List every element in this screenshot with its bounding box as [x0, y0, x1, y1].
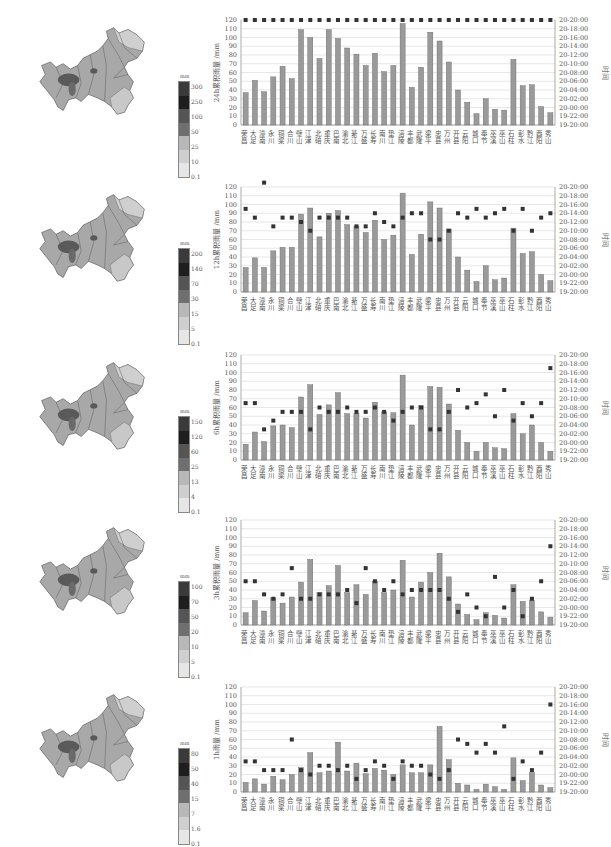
svg-text:垫江: 垫江: [386, 296, 394, 311]
bar-开县: [455, 430, 460, 460]
svg-text:80: 80: [229, 718, 237, 726]
svg-text:南川: 南川: [377, 129, 385, 144]
svg-text:70: 70: [229, 227, 237, 235]
svg-text:大足: 大足: [248, 296, 256, 312]
svg-text:丰都: 丰都: [405, 464, 413, 480]
svg-text:120: 120: [225, 683, 237, 691]
svg-text:潼南: 潼南: [257, 464, 265, 479]
svg-text:40: 40: [229, 586, 237, 594]
svg-text:20-18:00: 20-18:00: [559, 25, 588, 33]
svg-text:黔江: 黔江: [525, 629, 533, 644]
bar-云阳: [465, 785, 470, 792]
svg-text:铜梁: 铜梁: [276, 464, 284, 480]
svg-text:巴南: 巴南: [331, 630, 339, 644]
bar-秀山: [548, 788, 553, 792]
svg-text:璧山: 璧山: [294, 296, 302, 312]
bar-渝北: [345, 225, 350, 292]
svg-text:20-16:00: 20-16:00: [559, 34, 588, 42]
bar-巴南: [335, 742, 340, 792]
bar-长寿: [372, 53, 377, 125]
svg-text:北碚: 北碚: [313, 297, 321, 312]
svg-text:涪陵: 涪陵: [396, 296, 404, 312]
svg-text:开县: 开县: [451, 297, 459, 312]
precip-map: [20, 177, 155, 297]
bar-奉节: [483, 443, 488, 461]
bar-北碚: [317, 415, 322, 461]
legend-unit: mm: [180, 408, 189, 414]
svg-text:万州: 万州: [442, 797, 450, 811]
svg-text:忠县: 忠县: [433, 630, 441, 645]
svg-text:80: 80: [229, 551, 237, 559]
svg-text:巴南: 巴南: [331, 465, 339, 479]
legend-colorbar: [178, 81, 190, 178]
svg-text:100: 100: [225, 701, 237, 709]
bar-永川: [271, 251, 276, 292]
svg-text:丰都: 丰都: [405, 796, 413, 812]
svg-text:云阳: 云阳: [460, 297, 468, 312]
svg-text:20-18:00: 20-18:00: [559, 525, 588, 533]
bar-彭水: [520, 601, 525, 625]
svg-text:永川: 永川: [266, 296, 274, 311]
bar-万州: [446, 229, 451, 292]
svg-text:酉阳: 酉阳: [534, 630, 542, 645]
svg-text:垫江: 垫江: [386, 129, 394, 144]
bar-江津: [308, 385, 313, 460]
svg-text:6h累积雨量 /mm: 6h累积雨量 /mm: [212, 380, 221, 435]
svg-text:110: 110: [225, 192, 237, 200]
legend-tick: 5: [191, 326, 195, 332]
bar-南川: [382, 593, 387, 625]
svg-text:10: 10: [229, 279, 237, 287]
legend-tick: 25: [191, 144, 199, 150]
bar-开县: [455, 257, 460, 292]
bar-巫山: [502, 618, 507, 625]
bar-巫山: [502, 789, 507, 792]
svg-text:铜梁: 铜梁: [276, 129, 284, 145]
bar-巴南: [335, 211, 340, 292]
svg-text:酉阳: 酉阳: [534, 797, 542, 812]
svg-text:20-04:00: 20-04:00: [559, 421, 588, 429]
svg-text:北碚: 北碚: [313, 130, 321, 145]
legend-tick: 100: [191, 584, 202, 590]
svg-text:大足: 大足: [248, 796, 256, 812]
svg-text:綦江: 綦江: [349, 129, 357, 144]
svg-text:时间: 时间: [601, 66, 610, 80]
bar-万州: [446, 62, 451, 125]
bar-大足: [252, 258, 257, 292]
svg-text:合川: 合川: [285, 629, 293, 644]
svg-text:潼南: 潼南: [257, 629, 265, 644]
bar-潼南: [262, 784, 267, 792]
bar-秀山: [548, 451, 553, 460]
legend-unit: mm: [180, 240, 189, 246]
legend-tick: 1.6: [191, 826, 201, 832]
svg-text:20-16:00: 20-16:00: [559, 369, 588, 377]
svg-text:城口: 城口: [470, 465, 478, 479]
bar-长寿: [372, 402, 377, 460]
bar-酉阳: [539, 107, 544, 125]
svg-text:綦江: 綦江: [349, 464, 357, 479]
svg-text:30: 30: [229, 95, 237, 103]
svg-text:30: 30: [229, 595, 237, 603]
bar-石柱: [511, 758, 516, 792]
bar-荣昌: [243, 444, 248, 460]
bar-开县: [455, 604, 460, 625]
svg-text:30: 30: [229, 762, 237, 770]
legend-unit: mm: [180, 573, 189, 579]
svg-text:100: 100: [225, 201, 237, 209]
bar-忠县: [437, 208, 442, 292]
svg-text:长寿: 长寿: [368, 296, 376, 311]
svg-text:彭水: 彭水: [516, 796, 524, 811]
legend-tick: 250: [191, 99, 202, 105]
svg-text:20-12:00: 20-12:00: [559, 551, 588, 559]
precip-map: [20, 510, 155, 630]
svg-text:云阳: 云阳: [460, 797, 468, 812]
svg-text:40: 40: [229, 86, 237, 94]
svg-text:20-04:00: 20-04:00: [559, 253, 588, 261]
svg-text:20-12:00: 20-12:00: [559, 718, 588, 726]
bar-黔江: [529, 601, 534, 626]
svg-text:20-20:00: 20-20:00: [559, 516, 588, 524]
svg-text:20-06:00: 20-06:00: [559, 244, 588, 252]
bar-铜梁: [280, 66, 285, 125]
bar-涪陵: [400, 24, 405, 126]
svg-text:20-10:00: 20-10:00: [559, 395, 588, 403]
svg-text:奉节: 奉节: [479, 129, 487, 145]
